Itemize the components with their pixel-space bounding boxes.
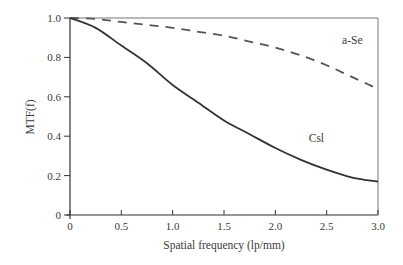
x-axis-label: Spatial frequency (lp/mm) [163, 239, 285, 252]
series-label: Csl [309, 132, 324, 144]
y-tick-label: 0.4 [47, 130, 61, 142]
y-tick-label: 0 [56, 209, 62, 221]
y-tick-label: 0.8 [47, 51, 61, 63]
y-tick-label: 1.0 [47, 12, 61, 24]
y-axis-ticks: 00.20.40.60.81.0 [47, 12, 70, 221]
x-tick-label: 3.0 [371, 220, 385, 232]
x-tick-label: 1.0 [166, 220, 180, 232]
x-tick-label: 2.0 [268, 220, 282, 232]
x-tick-label: 1.5 [217, 220, 231, 232]
mtf-chart: 00.20.40.60.81.0 00.51.01.52.02.53.0 a-S… [0, 0, 403, 265]
x-tick-label: 0.5 [114, 220, 128, 232]
x-tick-label: 2.5 [320, 220, 334, 232]
series-csi-line [70, 18, 378, 182]
x-tick-label: 0 [67, 220, 73, 232]
series-a-se-line [70, 18, 378, 89]
x-axis-ticks: 00.51.01.52.02.53.0 [67, 210, 385, 232]
annotation-layer: a-SeCsl [309, 34, 363, 145]
y-tick-label: 0.6 [47, 91, 61, 103]
series-layer [70, 18, 378, 182]
series-label: a-Se [342, 34, 362, 46]
y-tick-label: 0.2 [47, 170, 61, 182]
y-axis-label: MTF(f) [24, 99, 37, 134]
